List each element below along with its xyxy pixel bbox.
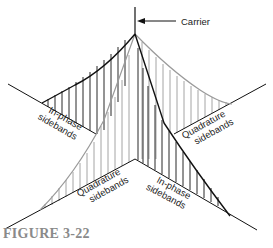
back-right-quadrature-envelope [135,34,232,104]
axis-lines [5,84,266,230]
back-left-label: In-phase sidebands [36,101,85,142]
sideband-diagram: Carrier In-phase sidebands Quadrature si… [0,0,273,248]
carrier-label: Carrier [181,16,210,27]
back-right-label: Quadrature sidebands [180,106,236,150]
figure-caption: FIGURE 3-22 [3,226,90,242]
back-left-in-phase-envelope [42,34,135,103]
front-left-label: Quadrature sidebands [75,164,131,208]
front-axes [5,159,257,230]
carrier-arrow-head-icon [137,18,145,24]
